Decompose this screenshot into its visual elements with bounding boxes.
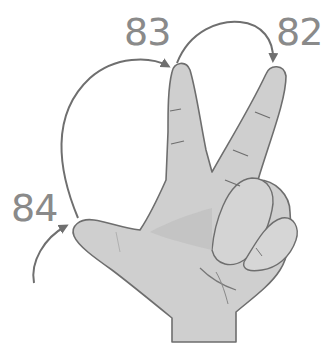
label-83: 83 [124, 13, 170, 51]
hand-icon [73, 63, 297, 342]
arrow-83-to-82 [177, 22, 273, 63]
arrow-start-to-84 [33, 226, 66, 283]
label-82: 82 [276, 13, 322, 51]
counting-hand-diagram: 84 83 82 [0, 0, 327, 347]
label-84: 84 [11, 189, 57, 227]
arrow-84-to-83 [61, 60, 168, 218]
